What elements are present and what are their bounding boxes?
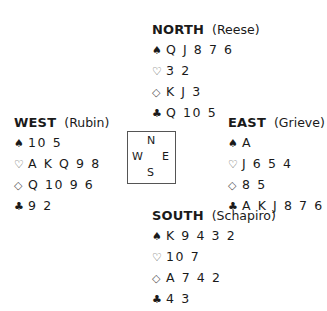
heart-icon: ♡	[152, 62, 166, 82]
compass-west: W	[132, 150, 143, 163]
compass-north: N	[147, 134, 155, 147]
spade-icon: ♠	[14, 134, 28, 154]
hearts-holding: 3 2	[166, 63, 191, 78]
player-name: (Reese)	[212, 22, 259, 37]
diamond-icon: ◇	[152, 83, 166, 103]
diamonds-holding: 8 5	[242, 177, 267, 192]
spade-icon: ♠	[228, 134, 242, 154]
seat-label: EAST	[228, 115, 266, 130]
compass-east: E	[162, 150, 169, 163]
club-icon: ♣	[152, 104, 166, 124]
hearts-holding: J 6 5 4	[242, 156, 293, 171]
spades-holding: 10 5	[28, 135, 62, 150]
hearts-holding: A K Q 9 8	[28, 156, 101, 171]
clubs-holding: 4 3	[166, 291, 191, 306]
diamond-icon: ◇	[14, 176, 28, 196]
east-hand: EAST(Grieve) ♠A ♡J 6 5 4 ◇8 5 ♣A K J 8 7…	[228, 113, 325, 217]
diamonds-holding: A 7 4 2	[166, 270, 222, 285]
heart-icon: ♡	[152, 248, 166, 268]
clubs-holding: 9 2	[28, 198, 53, 213]
spade-icon: ♠	[152, 227, 166, 247]
hearts-holding: 10 7	[166, 249, 200, 264]
bridge-diagram: NORTH(Reese) ♠Q J 8 7 6 ♡3 2 ◇K J 3 ♣Q 1…	[0, 0, 327, 311]
player-name: (Schapiro)	[212, 208, 276, 223]
diamond-icon: ◇	[228, 176, 242, 196]
south-hand: SOUTH(Schapiro) ♠K 9 4 3 2 ♡10 7 ◇A 7 4 …	[152, 206, 276, 310]
diamonds-holding: Q 10 9 6	[28, 177, 94, 192]
diamond-icon: ◇	[152, 269, 166, 289]
spades-holding: K 9 4 3 2	[166, 228, 236, 243]
spade-icon: ♠	[152, 41, 166, 61]
seat-label: NORTH	[152, 22, 204, 37]
club-icon: ♣	[14, 197, 28, 217]
heart-icon: ♡	[228, 155, 242, 175]
compass-south: S	[147, 166, 154, 179]
seat-label: SOUTH	[152, 208, 204, 223]
compass-box: N W E S	[127, 131, 176, 184]
spades-holding: A	[242, 135, 252, 150]
north-hand: NORTH(Reese) ♠Q J 8 7 6 ♡3 2 ◇K J 3 ♣Q 1…	[152, 20, 260, 124]
clubs-holding: Q 10 5	[166, 105, 217, 120]
player-name: (Grieve)	[274, 115, 325, 130]
diamonds-holding: K J 3	[166, 84, 202, 99]
west-hand: WEST(Rubin) ♠10 5 ♡A K Q 9 8 ◇Q 10 9 6 ♣…	[14, 113, 109, 217]
seat-label: WEST	[14, 115, 56, 130]
spades-holding: Q J 8 7 6	[166, 42, 234, 57]
club-icon: ♣	[152, 290, 166, 310]
player-name: (Rubin)	[64, 115, 109, 130]
heart-icon: ♡	[14, 155, 28, 175]
